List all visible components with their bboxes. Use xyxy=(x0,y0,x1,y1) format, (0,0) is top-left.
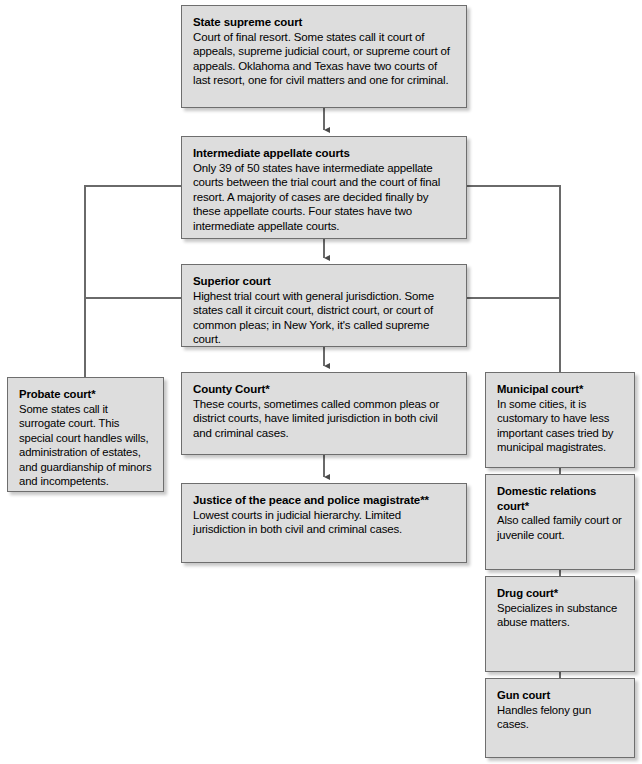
node-description: Lowest courts in judicial hierarchy. Lim… xyxy=(193,508,455,537)
node-intermediate-appellate-courts[interactable]: Intermediate appellate courts Only 39 of… xyxy=(181,136,467,239)
node-description: Handles felony gun cases. xyxy=(497,703,623,732)
node-title: Intermediate appellate courts xyxy=(193,146,455,161)
node-description: Only 39 of 50 states have intermediate a… xyxy=(193,161,455,234)
connector-right-branch-trunk xyxy=(467,186,560,372)
node-description: Specializes in substance abuse matters. xyxy=(497,601,623,630)
node-title: State supreme court xyxy=(193,15,455,30)
node-title: Probate court* xyxy=(19,387,152,402)
node-state-supreme-court[interactable]: State supreme court Court of final resor… xyxy=(181,5,467,108)
node-description: In some cities, it is customary to have … xyxy=(497,397,623,455)
node-probate-court[interactable]: Probate court* Some states call it surro… xyxy=(7,377,164,492)
node-title: County Court* xyxy=(193,382,455,397)
node-title: Drug court* xyxy=(497,586,623,601)
node-description: Some states call it surrogate court. Thi… xyxy=(19,402,152,489)
court-system-diagram: State supreme court Court of final resor… xyxy=(0,0,642,764)
node-description: Court of final resort. Some states call … xyxy=(193,30,455,88)
node-gun-court[interactable]: Gun court Handles felony gun cases. xyxy=(485,678,635,758)
node-title: Domestic relations court* xyxy=(497,484,623,513)
node-justice-of-the-peace-and-police-magistrate[interactable]: Justice of the peace and police magistra… xyxy=(181,483,467,563)
node-drug-court[interactable]: Drug court* Specializes in substance abu… xyxy=(485,576,635,672)
node-title: Gun court xyxy=(497,688,623,703)
connector-left-branch-trunk xyxy=(85,186,181,377)
node-description: Highest trial court with general jurisdi… xyxy=(193,289,455,347)
node-description: These courts, sometimes called common pl… xyxy=(193,397,455,441)
node-title: Justice of the peace and police magistra… xyxy=(193,493,455,508)
node-county-court[interactable]: County Court* These courts, sometimes ca… xyxy=(181,372,467,455)
node-title: Municipal court* xyxy=(497,382,623,397)
node-description: Also called family court or juvenile cou… xyxy=(497,513,623,542)
node-superior-court[interactable]: Superior court Highest trial court with … xyxy=(181,264,467,347)
node-domestic-relations-court[interactable]: Domestic relations court* Also called fa… xyxy=(485,474,635,570)
node-title: Superior court xyxy=(193,274,455,289)
node-municipal-court[interactable]: Municipal court* In some cities, it is c… xyxy=(485,372,635,468)
